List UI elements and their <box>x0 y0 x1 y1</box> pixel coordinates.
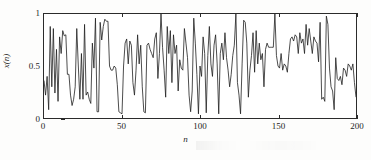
signal-polyline <box>44 14 356 114</box>
figure-root: x(n) 10.50 050100150200 n <box>0 0 371 160</box>
x-tick-label: 50 <box>117 122 126 131</box>
y-tick-label: 0 <box>36 115 41 124</box>
x-axis-label: n <box>0 134 371 144</box>
y-tick-label: 1 <box>36 9 41 18</box>
x-tick-mark <box>43 115 44 119</box>
x-tick-mark-top <box>122 13 123 17</box>
y-axis-label: x(n) <box>1 44 11 78</box>
plot-area <box>43 13 357 119</box>
x-tick-label: 0 <box>41 122 46 131</box>
x-tick-mark-top <box>279 13 280 17</box>
x-tick-mark <box>200 115 201 119</box>
x-tick-mark-top <box>43 13 44 17</box>
y-tick-mark <box>61 119 65 120</box>
x-tick-label: 150 <box>272 122 286 131</box>
x-tick-mark <box>357 115 358 119</box>
x-tick-mark <box>122 115 123 119</box>
x-tick-mark-top <box>357 13 358 17</box>
x-tick-label: 100 <box>193 122 207 131</box>
x-tick-mark-top <box>200 13 201 17</box>
x-tick-mark <box>279 115 280 119</box>
x-tick-label: 200 <box>350 122 364 131</box>
y-tick-label: 0.5 <box>29 62 40 71</box>
signal-line-chart <box>44 14 356 118</box>
